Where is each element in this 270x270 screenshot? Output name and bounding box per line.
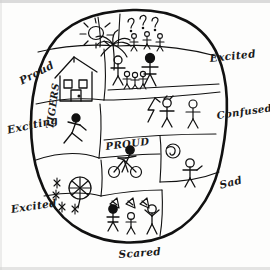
emotion-map-svg bbox=[0, 0, 270, 270]
divider-tigers-right bbox=[99, 104, 101, 158]
question-mark-icon bbox=[152, 17, 158, 30]
divider-party-top bbox=[101, 190, 162, 196]
stick-figure-icon bbox=[131, 72, 139, 89]
divider-house-right bbox=[104, 49, 106, 100]
stick-figure-icon bbox=[107, 205, 119, 231]
stick-figure-icon bbox=[130, 34, 138, 51]
sparkle-icon bbox=[54, 178, 60, 188]
party-hat-icon bbox=[140, 198, 149, 208]
stick-figure-icon bbox=[123, 71, 131, 89]
stick-figure-icon bbox=[142, 54, 158, 87]
divider-crowd-row bbox=[104, 92, 220, 100]
sparkle-icon bbox=[59, 202, 65, 212]
palm-tree-icon bbox=[96, 30, 131, 70]
running-stick-figure-icon bbox=[64, 114, 86, 143]
question-mark-icon bbox=[140, 15, 146, 28]
divider-party-right bbox=[160, 190, 162, 236]
house-icon bbox=[55, 57, 97, 101]
drawing-canvas: TIGERS PROUD Proud Exciting Excited Scar… bbox=[0, 0, 270, 270]
stick-figure-icon bbox=[126, 213, 136, 234]
divider-center-right bbox=[160, 136, 161, 182]
divider-pinwheel-right bbox=[101, 160, 102, 196]
sparkle-icon bbox=[72, 204, 78, 214]
divider-tigers-bottom bbox=[36, 154, 99, 160]
divider-top-band-2 bbox=[118, 45, 216, 56]
stick-figure-icon bbox=[145, 205, 159, 234]
question-mark-icon bbox=[128, 18, 134, 31]
sun-icon bbox=[80, 18, 113, 48]
stick-figure-icon bbox=[143, 32, 151, 49]
party-hat-icon bbox=[126, 198, 135, 208]
stick-figure-icon bbox=[111, 56, 125, 85]
lightning-bolt-icon bbox=[148, 98, 160, 122]
stick-figure-icon bbox=[186, 100, 200, 128]
ball-icon bbox=[166, 144, 180, 158]
bicycle-icon bbox=[109, 158, 142, 178]
stick-figure-icon bbox=[156, 34, 164, 51]
stick-figure-icon bbox=[183, 159, 202, 187]
stick-figure-icon bbox=[160, 96, 174, 127]
stick-figure-icon bbox=[139, 71, 147, 89]
